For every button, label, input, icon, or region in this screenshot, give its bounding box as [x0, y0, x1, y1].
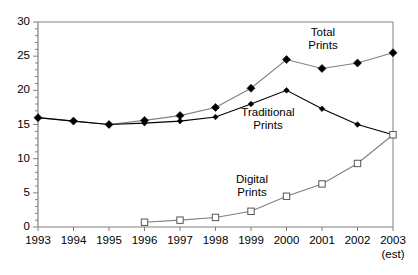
y-axis-tick-label: 20: [17, 83, 30, 95]
series-annotation: Digital: [236, 173, 268, 185]
x-axis-tick-label: 2001: [309, 234, 335, 246]
series-annotation: Traditional: [241, 106, 294, 118]
marker-digital-prints: [177, 217, 183, 223]
x-axis-tick-label: 2003: [380, 234, 406, 246]
series-annotation: Prints: [308, 39, 338, 51]
x-axis-tick-label: 1994: [61, 234, 87, 246]
y-axis-tick-label: 0: [24, 220, 30, 232]
series-annotation: Prints: [237, 186, 267, 198]
x-axis-tick-label: 2000: [274, 234, 300, 246]
x-axis-tick-label: 2002: [345, 234, 371, 246]
marker-digital-prints: [248, 208, 254, 214]
line-chart: 302520151050 199319941995199619971998199…: [0, 0, 418, 275]
x-axis-tick-label: 1995: [96, 234, 122, 246]
marker-digital-prints: [141, 219, 147, 225]
marker-digital-prints: [354, 160, 360, 166]
series-annotation: Total: [311, 26, 335, 38]
x-axis-tick-label: 1993: [25, 234, 51, 246]
x-axis-tick-label: 1998: [203, 234, 229, 246]
y-axis-tick-label: 5: [24, 186, 30, 198]
marker-digital-prints: [319, 181, 325, 187]
chart-container: 302520151050 199319941995199619971998199…: [0, 0, 418, 275]
x-axis-est-note: (est): [382, 248, 405, 260]
x-axis-tick-label: 1999: [238, 234, 264, 246]
y-axis-tick-label: 25: [17, 49, 30, 61]
marker-digital-prints: [283, 193, 289, 199]
x-axis-tick-label: 1997: [167, 234, 193, 246]
y-axis-tick-label: 15: [17, 118, 30, 130]
marker-digital-prints: [390, 132, 396, 138]
y-axis-tick-label: 30: [17, 15, 30, 27]
marker-digital-prints: [212, 214, 218, 220]
y-axis-tick-label: 10: [17, 152, 30, 164]
x-axis-tick-label: 1996: [132, 234, 158, 246]
series-annotation: Prints: [253, 119, 283, 131]
